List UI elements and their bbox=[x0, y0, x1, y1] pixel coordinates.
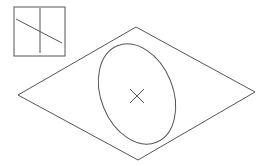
ellipse-outline bbox=[84, 32, 190, 155]
center-cross-icon bbox=[130, 89, 144, 103]
inset-diagonal-line bbox=[16, 19, 62, 43]
rhombus-plane bbox=[18, 27, 255, 160]
diagram-canvas bbox=[0, 0, 268, 166]
